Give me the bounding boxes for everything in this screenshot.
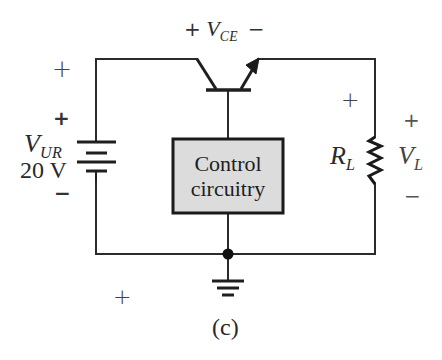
load-plus-sign: +: [403, 110, 420, 130]
vl-subscript: L: [414, 156, 423, 173]
transistor-collector: [197, 59, 216, 89]
source-outer-plus-sign: +: [52, 57, 72, 81]
vce-plus-sign: +: [184, 17, 201, 41]
junction-dot: [223, 249, 234, 260]
vce-label: + VCE −: [184, 18, 264, 40]
control-label-line2: circuitry: [191, 176, 266, 201]
resistor-symbol: [369, 137, 381, 184]
load-minus-sign: −: [404, 186, 421, 206]
figure-caption: (c): [212, 315, 239, 339]
wire-left-top: [96, 59, 197, 142]
battery-symbol: [77, 142, 116, 181]
load-voltage-label: VL: [398, 143, 423, 169]
source-voltage-value: 20 V: [20, 158, 67, 182]
regulator-circuit-diagram: Control circuitry + VCE − + + VUR 20 V −…: [0, 0, 442, 360]
vce-minus-sign: −: [248, 17, 265, 41]
vur-symbol: V: [24, 129, 40, 158]
transistor-symbol: [197, 58, 259, 90]
resistor-label: RL: [330, 143, 355, 169]
stray-plus-sign: +: [113, 286, 131, 308]
control-label-line1: Control: [194, 151, 261, 176]
rl-symbol: R: [330, 141, 346, 170]
rl-subscript: L: [346, 156, 355, 173]
vce-subscript: CE: [220, 29, 238, 44]
source-plus-sign: +: [53, 108, 70, 128]
source-minus-sign: −: [54, 183, 71, 203]
ground-icon: [212, 281, 244, 295]
source-voltage-symbol: VUR: [24, 131, 62, 157]
control-circuitry-label: Control circuitry: [173, 139, 283, 213]
load-inner-plus-sign: +: [341, 89, 359, 111]
vl-symbol: V: [398, 141, 414, 170]
vce-symbol: V: [206, 16, 219, 41]
